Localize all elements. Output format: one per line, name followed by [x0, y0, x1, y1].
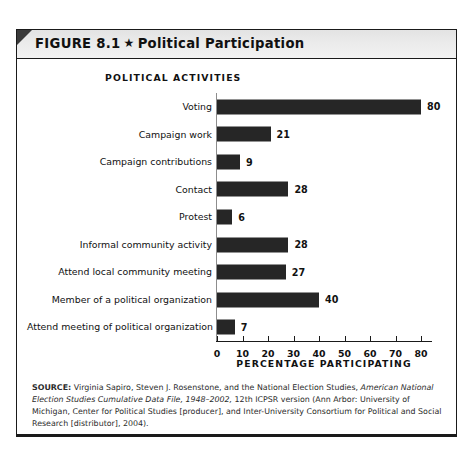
- figure-number: FIGURE 8.1: [35, 36, 121, 51]
- axis-tick: [243, 336, 244, 342]
- bar-value-label: 40: [325, 295, 338, 305]
- bar-row: Protest6: [17, 203, 456, 231]
- bar-and-value: 40: [217, 292, 338, 307]
- axis-tick: [268, 336, 269, 342]
- source-note: SOURCE: Virginia Sapiro, Steven J. Rosen…: [32, 382, 444, 430]
- bar: [217, 237, 288, 252]
- bar-and-value: 27: [217, 265, 305, 280]
- value-axis-line: 01020304050607080: [216, 341, 432, 342]
- bar-row: Attend meeting of political organization…: [17, 313, 456, 341]
- axis-tick: [217, 336, 218, 342]
- bar: [217, 127, 271, 142]
- bar-and-value: 7: [217, 320, 248, 335]
- corner-fold-decoration: [17, 30, 32, 45]
- bar-category-label: Contact: [27, 185, 212, 194]
- value-axis-title: PERCENTAGE PARTICIPATING: [216, 358, 432, 369]
- bar-row: Contact28: [17, 176, 456, 204]
- bar-row: Campaign contributions9: [17, 148, 456, 176]
- figure-frame: FIGURE 8.1★Political Participation POLIT…: [16, 29, 457, 437]
- bar-category-label: Protest: [27, 212, 212, 221]
- bar: [217, 99, 421, 114]
- bar-value-label: 7: [241, 322, 248, 332]
- axis-tick: [396, 336, 397, 342]
- bar-value-label: 27: [292, 267, 305, 277]
- figure-title-text: Political Participation: [138, 36, 305, 51]
- bar-category-label: Informal community activity: [27, 240, 212, 249]
- bar-value-label: 9: [246, 157, 253, 167]
- source-prefix: SOURCE:: [32, 383, 71, 392]
- plot-region: Voting80Campaign work21Campaign contribu…: [17, 93, 456, 341]
- bar-and-value: 21: [217, 127, 290, 142]
- bar-and-value: 80: [217, 99, 440, 114]
- bar-category-label: Campaign contributions: [27, 157, 212, 166]
- bar-row: Informal community activity28: [17, 231, 456, 259]
- bar-and-value: 28: [217, 182, 308, 197]
- bar-row: Attend local community meeting27: [17, 258, 456, 286]
- bar-and-value: 9: [217, 154, 253, 169]
- bar-list: Voting80Campaign work21Campaign contribu…: [17, 93, 456, 341]
- bar-value-label: 21: [277, 130, 290, 140]
- bar: [217, 154, 240, 169]
- axis-tick: [345, 336, 346, 342]
- source-part1: Virginia Sapiro, Steven J. Rosenstone, a…: [71, 383, 360, 392]
- bar-category-label: Attend local community meeting: [27, 267, 212, 276]
- axis-tick: [294, 336, 295, 342]
- chart-area: POLITICAL ACTIVITIES Voting80Campaign wo…: [17, 59, 456, 382]
- bar-category-label: Voting: [27, 102, 212, 111]
- bar: [217, 292, 319, 307]
- bar-and-value: 28: [217, 237, 308, 252]
- bar-category-label: Attend meeting of political organization: [27, 322, 212, 331]
- bar-and-value: 6: [217, 209, 245, 224]
- bar: [217, 265, 286, 280]
- category-axis-caption: POLITICAL ACTIVITIES: [105, 72, 241, 83]
- bar-value-label: 28: [294, 185, 307, 195]
- axis-tick: [370, 336, 371, 342]
- bar: [217, 182, 288, 197]
- bar-value-label: 6: [238, 212, 245, 222]
- figure-title: FIGURE 8.1★Political Participation: [35, 36, 304, 51]
- star-icon: ★: [121, 36, 138, 50]
- bar-row: Campaign work21: [17, 121, 456, 149]
- figure-header-band: FIGURE 8.1★Political Participation: [17, 30, 456, 59]
- bar: [217, 209, 232, 224]
- bar-row: Member of a political organization40: [17, 286, 456, 314]
- bar: [217, 320, 235, 335]
- bar-value-label: 80: [427, 102, 440, 112]
- axis-tick: [319, 336, 320, 342]
- bar-row: Voting80: [17, 93, 456, 121]
- axis-tick: [421, 336, 422, 342]
- bar-value-label: 28: [294, 240, 307, 250]
- bar-category-label: Campaign work: [27, 130, 212, 139]
- bar-category-label: Member of a political organization: [27, 295, 212, 304]
